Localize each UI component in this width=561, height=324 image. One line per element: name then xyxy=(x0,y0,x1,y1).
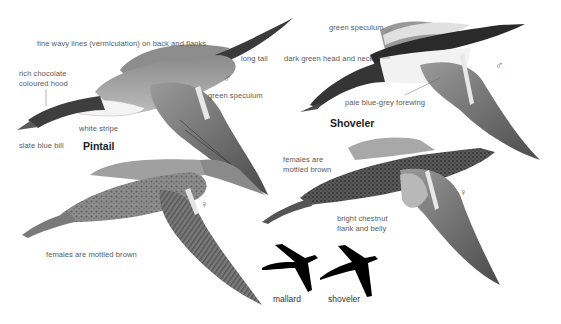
label-hood-line1: rich chocolate xyxy=(19,69,67,79)
label-dark-green-head: dark green head and neck xyxy=(284,54,373,64)
silhouette-label-mallard: mallard xyxy=(273,294,301,304)
label-chestnut-line2: flank and belly xyxy=(337,224,386,234)
shoveler-male-illustration xyxy=(300,22,540,161)
male-symbol-pintail: ♂ xyxy=(223,73,231,84)
label-chestnut-line1: bright chestnut xyxy=(337,214,388,224)
mallard-silhouette xyxy=(262,244,318,292)
label-pale-forewing: pale blue-grey forewing xyxy=(345,98,425,108)
label-shoveler-speculum: green speculum xyxy=(329,23,384,33)
label-shoveler-female-line1: females are xyxy=(283,155,323,165)
label-pintail-female-mottled: females are mottled brown xyxy=(46,250,137,260)
label-white-stripe: white stripe xyxy=(79,124,118,134)
species-name-pintail: Pintail xyxy=(83,140,115,152)
label-pintail-speculum: green speculum xyxy=(208,91,263,101)
pintail-female-illustration xyxy=(22,159,265,305)
shoveler-silhouette xyxy=(320,245,378,297)
label-vermiculation: fine wavy lines (vermiculation) on back … xyxy=(37,39,206,49)
species-name-shoveler: Shoveler xyxy=(330,117,374,129)
female-symbol-pintail: ♀ xyxy=(200,199,208,210)
label-slate-bill: slate blue bill xyxy=(19,141,64,151)
male-symbol-shoveler: ♂ xyxy=(495,60,503,71)
label-long-tail: long tail xyxy=(241,54,268,64)
label-hood-line2: coloured hood xyxy=(19,79,68,89)
duck-identification-plate: fine wavy lines (vermiculation) on back … xyxy=(0,0,561,324)
female-symbol-shoveler: ♀ xyxy=(459,187,467,198)
label-shoveler-female-line2: mottled brown xyxy=(283,165,331,175)
silhouette-label-shoveler: shoveler xyxy=(328,294,360,304)
